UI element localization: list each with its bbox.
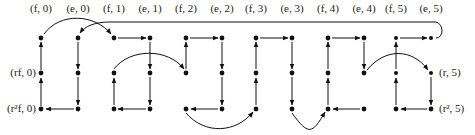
- cayley-diagram: (f, 0) (e, 0) (f, 1) (e, 1) (f, 2) (e, 2…: [0, 0, 475, 135]
- label-r2-5: (r², 5): [439, 102, 465, 115]
- label-r5: (r, 5): [439, 66, 461, 79]
- label-f4: (f, 4): [317, 2, 339, 15]
- label-e2: (e, 2): [210, 2, 234, 15]
- label-e5: (e, 5): [419, 2, 443, 15]
- label-e4: (e, 4): [352, 2, 376, 15]
- label-f5: (f, 5): [385, 2, 407, 15]
- label-f0: (f, 0): [30, 2, 52, 15]
- label-r2f0: (r²f, 0): [7, 102, 36, 115]
- label-e1: (e, 1): [138, 2, 162, 15]
- top-labels: (f, 0) (e, 0) (f, 1) (e, 1) (f, 2) (e, 2…: [30, 2, 443, 15]
- label-f2: (f, 2): [175, 2, 197, 15]
- label-e3: (e, 3): [280, 2, 304, 15]
- edge-e5-to-e0: [80, 22, 442, 38]
- label-e0: (e, 0): [66, 2, 90, 15]
- edge-f0-to-f1: [44, 18, 111, 34]
- label-f1: (f, 1): [103, 2, 125, 15]
- nodes: [39, 36, 434, 112]
- edges: [41, 18, 442, 129]
- label-f3: (f, 3): [245, 2, 267, 15]
- label-rf0: (rf, 0): [10, 66, 36, 79]
